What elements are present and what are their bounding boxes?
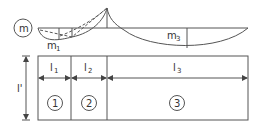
panel-3-number: 3 bbox=[174, 98, 180, 109]
peak-right bbox=[107, 8, 124, 30]
span-l2-sub: 2 bbox=[88, 67, 92, 75]
dashed-line-1 bbox=[40, 8, 107, 37]
span-l3-sub: 3 bbox=[177, 67, 181, 75]
span-l1-label: l bbox=[50, 62, 53, 73]
panel-1-number: 1 bbox=[52, 98, 58, 109]
m1-sub: 1 bbox=[56, 45, 60, 53]
height-label: l' bbox=[17, 83, 23, 94]
span-l3-label: l bbox=[173, 62, 176, 73]
panel-2-number: 2 bbox=[86, 98, 92, 109]
m3-curve bbox=[124, 28, 248, 46]
m3-sub: 3 bbox=[176, 35, 180, 43]
span-l2-label: l bbox=[84, 62, 87, 73]
slab-outline bbox=[38, 56, 248, 120]
moment-label: m bbox=[19, 23, 29, 34]
moment-diagram: m m 1 m 3 l 1 l 2 l 3 1 2 3 l' bbox=[0, 0, 259, 130]
span-l1-sub: 1 bbox=[54, 67, 58, 75]
slab-plan bbox=[22, 56, 248, 120]
